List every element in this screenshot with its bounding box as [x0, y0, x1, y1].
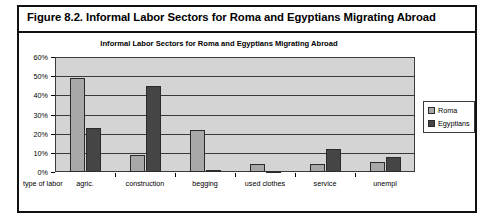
bar-roma-begging: [190, 130, 205, 172]
bar-roma-construction: [130, 155, 145, 172]
legend-item-roma: Roma: [428, 106, 471, 115]
y-axis-tick-label: 60%: [19, 53, 48, 62]
x-axis-title: type of labor: [23, 179, 63, 188]
y-axis-tick-label: 0%: [19, 168, 48, 177]
gridline: [56, 134, 414, 135]
bar-egyptians-usedclothes: [266, 171, 281, 173]
legend-swatch-icon-egyptians: [428, 120, 435, 127]
y-axis-tick-label: 40%: [19, 91, 48, 100]
legend-label-roma: Roma: [438, 106, 457, 115]
bar-roma-unempl: [370, 162, 385, 172]
legend-swatch-icon-roma: [428, 107, 435, 114]
bar-roma-service: [310, 164, 325, 172]
legend-item-egyptians: Egyptians: [428, 119, 471, 128]
chart-title: Informal Labor Sectors for Roma and Egyp…: [19, 39, 419, 48]
y-axis-tick-label: 50%: [19, 72, 48, 81]
chart-area: Informal Labor Sectors for Roma and Egyp…: [19, 33, 479, 213]
legend-label-egyptians: Egyptians: [438, 119, 470, 128]
x-axis-tick: [175, 173, 176, 177]
x-axis-label: construction: [126, 179, 165, 188]
y-axis-tick-label: 20%: [19, 130, 48, 139]
y-axis-tick: [51, 153, 55, 154]
y-axis-tick-label: 10%: [19, 149, 48, 158]
bar-egyptians-agric: [86, 128, 101, 172]
gridline: [56, 76, 414, 77]
y-axis-tick: [51, 115, 55, 116]
x-axis-tick: [235, 173, 236, 177]
y-axis-tick: [51, 95, 55, 96]
x-axis-label: used clothes: [245, 179, 285, 188]
y-axis-tick: [51, 172, 55, 173]
bar-roma-usedclothes: [250, 164, 265, 172]
y-axis-tick: [51, 57, 55, 58]
x-axis-label: service: [314, 179, 337, 188]
x-axis-label: agric.: [76, 179, 94, 188]
y-axis-tick: [51, 76, 55, 77]
bar-egyptians-unempl: [386, 157, 401, 172]
bar-egyptians-begging: [206, 170, 221, 172]
figure-frame: Figure 8.2. Informal Labor Sectors for R…: [17, 5, 477, 213]
y-axis-tick-label: 30%: [19, 111, 48, 120]
bar-egyptians-construction: [146, 86, 161, 172]
figure-caption: Figure 8.2. Informal Labor Sectors for R…: [19, 7, 475, 33]
y-axis-tick: [51, 134, 55, 135]
x-axis-label: unempl: [373, 179, 397, 188]
chart-legend: Roma Egyptians: [423, 101, 475, 133]
x-axis-tick: [295, 173, 296, 177]
bar-egyptians-service: [326, 149, 341, 172]
bar-roma-agric: [70, 78, 85, 172]
x-axis-label: begging: [192, 179, 218, 188]
gridline: [56, 115, 414, 116]
gridline: [56, 95, 414, 96]
x-axis-tick: [355, 173, 356, 177]
x-axis-tick: [115, 173, 116, 177]
plot-area: [55, 57, 415, 172]
gridline: [56, 153, 414, 154]
